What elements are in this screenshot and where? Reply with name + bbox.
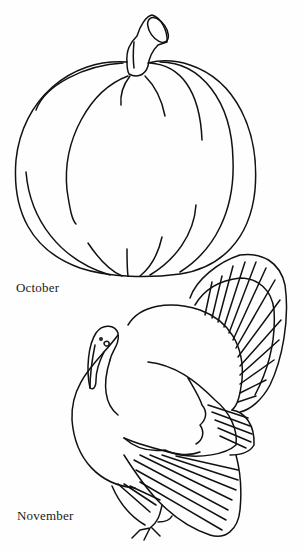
turkey-leg [132, 505, 172, 540]
pumpkin-outer [15, 61, 255, 277]
turkey-breast [72, 335, 135, 488]
coloring-page-artwork [0, 0, 304, 552]
caption-november: November [17, 508, 73, 524]
turkey-eye [100, 338, 102, 340]
turkey-body [128, 305, 242, 410]
turkey-illustration [72, 254, 287, 540]
pumpkin-illustration [15, 14, 255, 277]
pumpkin-stem-top [143, 14, 172, 46]
caption-october: October [16, 280, 59, 296]
